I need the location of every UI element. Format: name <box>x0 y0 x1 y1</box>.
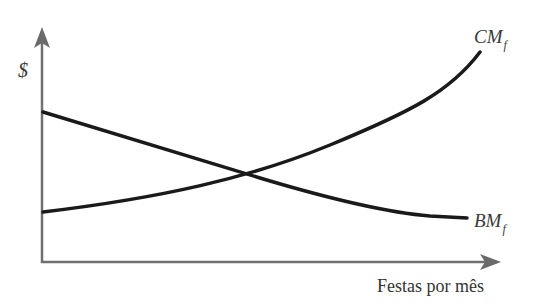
bm-label-sub: f <box>502 222 505 236</box>
chart-canvas <box>0 0 534 308</box>
cm-label-sub: f <box>504 38 507 52</box>
cm-label-main: CM <box>474 26 503 47</box>
cm-curve-label: CMf <box>474 27 506 46</box>
bm-curve-label: BMf <box>474 211 505 230</box>
y-axis-label: $ <box>18 60 28 80</box>
bm-label-main: BM <box>474 210 501 231</box>
x-axis-label: Festas por mês <box>377 277 484 295</box>
